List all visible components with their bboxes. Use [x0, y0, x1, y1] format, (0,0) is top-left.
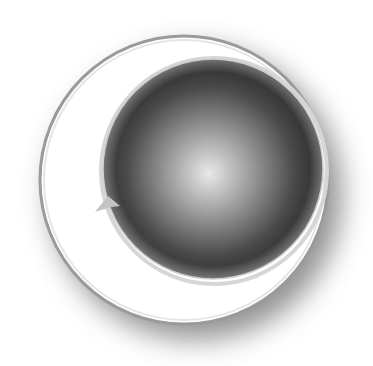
orb-icon-svg [0, 0, 373, 366]
orb-icon-figure [0, 0, 373, 366]
sphere-rim-glow [103, 59, 323, 279]
